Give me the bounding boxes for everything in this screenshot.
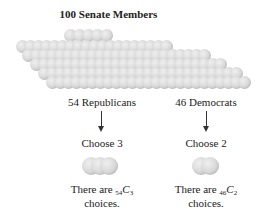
democrats-selected-balls <box>192 157 222 175</box>
republicans-choose-label: Choose 3 <box>52 137 152 149</box>
result-post-subscript: 3 <box>130 189 134 197</box>
combination-symbol: C <box>122 183 129 195</box>
democrats-choose-label: Choose 2 <box>156 137 256 149</box>
result-prefix: There are <box>175 183 220 195</box>
republicans-selected-balls <box>82 157 122 175</box>
republicans-arrow-shaft <box>101 111 102 127</box>
result-prefix: There are <box>71 183 116 195</box>
republicans-arrow-head-icon <box>98 126 104 132</box>
democrats-arrow-head-icon <box>203 126 209 132</box>
senator-ball <box>238 76 251 89</box>
republicans-result-line2: choices. <box>52 197 152 209</box>
democrats-result-line1: There are 46C2 <box>156 183 256 197</box>
result-post-subscript: 2 <box>234 189 238 197</box>
republicans-result-line1: There are 54C3 <box>52 183 152 197</box>
republicans-label: 54 Republicans <box>52 96 152 108</box>
combination-symbol: C <box>226 183 233 195</box>
selected-ball <box>201 157 219 175</box>
democrats-arrow-shaft <box>206 111 207 127</box>
selected-ball <box>100 157 118 175</box>
senate-members-cluster <box>0 0 259 100</box>
democrats-result-line2: choices. <box>156 197 256 209</box>
democrats-label: 46 Democrats <box>156 96 256 108</box>
